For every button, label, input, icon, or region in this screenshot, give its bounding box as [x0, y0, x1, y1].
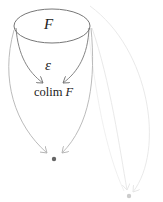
colimit-diagram: F ε colim F — [0, 0, 163, 202]
diagram-canvas — [0, 0, 163, 202]
arrow-functor-to-light-dot-diagonal — [92, 28, 127, 190]
colimit-label: colim F — [34, 86, 73, 99]
cocone-label: ε — [45, 58, 51, 73]
arrow-right-to-light-dot — [88, 28, 124, 191]
colim-operator: colim — [34, 85, 62, 99]
colim-functor: F — [66, 85, 74, 99]
arrow-functor-right-to-colim — [63, 28, 89, 83]
arrow-functor-to-light-dot-outer — [90, 6, 149, 192]
dark-dot — [52, 157, 56, 161]
light-dot — [127, 194, 131, 198]
functor-label: F — [44, 17, 53, 32]
arrow-functor-left-to-colim — [16, 28, 43, 83]
